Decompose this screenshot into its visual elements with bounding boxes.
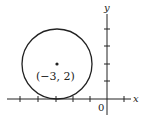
origin-label: 0 <box>98 102 104 113</box>
coordinate-diagram: (−3, 2) x y 0 <box>0 0 155 127</box>
x-axis-label: x <box>133 93 139 104</box>
center-label: (−3, 2) <box>36 70 75 83</box>
y-axis-label: y <box>103 2 110 13</box>
center-point <box>55 62 58 65</box>
